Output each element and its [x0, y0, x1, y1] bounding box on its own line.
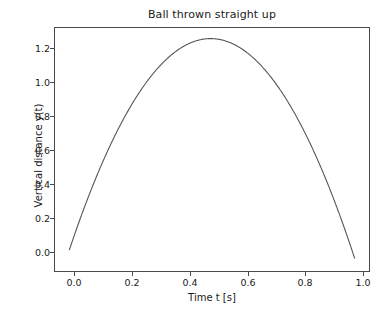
y-axis-label: Vertical distance y(t)	[33, 56, 44, 256]
xtick-mark-0.2	[132, 272, 133, 276]
plot-area	[54, 27, 370, 272]
trajectory-curve	[55, 28, 369, 271]
xtick-mark-0.0	[74, 272, 75, 276]
xtick-mark-0.4	[190, 272, 191, 276]
x-axis-label: Time t [s]	[54, 292, 370, 303]
xtick-label-0.2: 0.2	[124, 277, 139, 288]
xtick-label-0.6: 0.6	[240, 277, 255, 288]
xtick-mark-1.0	[363, 272, 364, 276]
xtick-mark-0.8	[305, 272, 306, 276]
curve-path	[69, 39, 354, 259]
xtick-label-1.0: 1.0	[355, 277, 370, 288]
xtick-label-0.0: 0.0	[66, 277, 81, 288]
chart-title: Ball thrown straight up	[54, 8, 370, 21]
matplotlib-figure: Ball thrown straight up 1.2 1.0 0.8 0.6 …	[0, 0, 388, 317]
xtick-label-0.4: 0.4	[182, 277, 197, 288]
ytick-label-1.2: 1.2	[35, 43, 50, 54]
xtick-mark-0.6	[248, 272, 249, 276]
xtick-label-0.8: 0.8	[297, 277, 312, 288]
